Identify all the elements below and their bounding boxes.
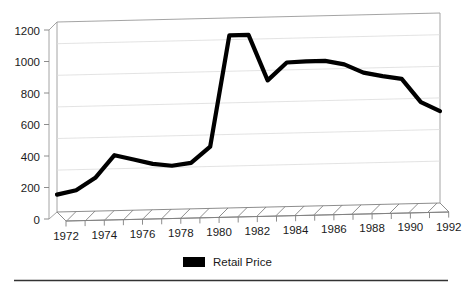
x-tick-label: 1984 (283, 224, 309, 236)
plot-frame (57, 13, 440, 212)
x-tick-label: 1986 (321, 223, 347, 235)
x-tick-label: 1976 (130, 228, 156, 240)
x-tick-label: 1980 (206, 226, 232, 238)
y-tick-label: 600 (21, 119, 40, 131)
y-tick-label: 1200 (14, 25, 40, 37)
x-tick-label: 1982 (245, 225, 271, 237)
y-tick-label: 0 (34, 214, 40, 226)
x-tick-label: 1988 (359, 222, 385, 234)
x-tick-label: 1978 (168, 227, 194, 239)
x-tick-label: 1990 (398, 221, 424, 233)
chart-svg: 1200 1000 800 600 400 200 0 (0, 0, 462, 291)
legend-label-retail-price: Retail Price (213, 256, 272, 268)
y-tick-label: 1000 (14, 56, 40, 68)
y-tick-label: 800 (21, 88, 40, 100)
chart-legend: Retail Price (183, 256, 272, 268)
legend-swatch-retail-price (183, 257, 205, 267)
y-tick-label: 200 (21, 182, 40, 194)
x-tick-label: 1972 (53, 230, 79, 242)
chart-figure: 1200 1000 800 600 400 200 0 (0, 0, 462, 291)
x-tick-label: 1992 (436, 221, 462, 233)
x-tick-label: 1974 (92, 229, 118, 241)
y-tick-label: 400 (21, 151, 40, 163)
